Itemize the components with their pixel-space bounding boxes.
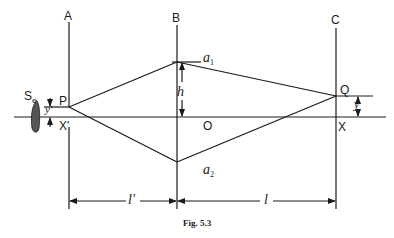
figure-caption: Fig. 5.3 (183, 218, 211, 228)
h-dimension-label: h (177, 85, 184, 99)
point-x-label: X (338, 121, 346, 133)
a1-subscript: 1 (210, 58, 214, 67)
source-label: Se (24, 90, 36, 102)
a2-subscript: 2 (210, 170, 214, 179)
source-subscript: e (32, 96, 36, 105)
point-a2-label: a2 (203, 163, 214, 177)
point-o-label: O (203, 120, 212, 132)
ray-p-a2 (69, 107, 177, 162)
screen-b-label: B (172, 12, 180, 24)
point-x-prime-label: X' (59, 120, 69, 132)
point-a1-label: a1 (203, 51, 214, 65)
y-dimension-label: y (354, 98, 359, 110)
a2-letter: a (203, 162, 210, 177)
l-prime-dimension-label: l' (128, 193, 135, 207)
ray-a1-q (177, 62, 336, 96)
point-p-label: P (59, 95, 67, 107)
screen-a-label: A (64, 10, 72, 22)
screen-c-label: C (331, 14, 340, 26)
point-q-label: Q (340, 84, 349, 96)
extended-source-shape (31, 101, 39, 132)
ray-a2-q (177, 96, 336, 162)
l-dimension-label: l (264, 193, 268, 207)
source-letter: S (24, 89, 32, 103)
a1-letter: a (203, 50, 210, 65)
ray-p-a1 (69, 62, 177, 107)
y-prime-dimension-label: y' (45, 104, 52, 115)
